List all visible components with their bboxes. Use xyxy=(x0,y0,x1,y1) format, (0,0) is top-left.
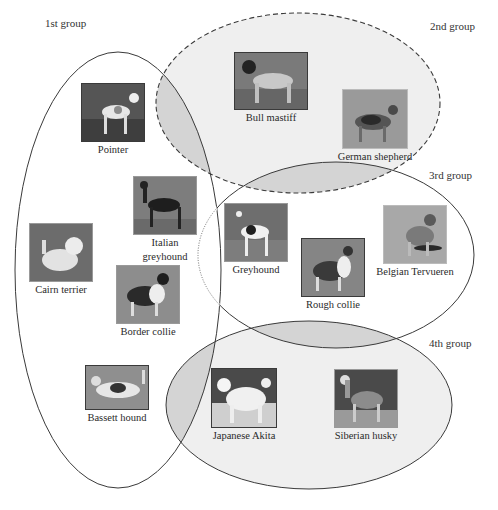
pointer-photo xyxy=(81,83,145,142)
dog-belgian-tervueren: Belgian Tervueren xyxy=(369,205,461,278)
group-2-label: 2nd group xyxy=(430,20,475,32)
german-shepherd-label: German shepherd xyxy=(327,151,423,163)
cairn-terrier-photo xyxy=(29,223,93,282)
greyhound-label: Greyhound xyxy=(222,264,290,276)
italian-greyhound-label-line2: greyhound xyxy=(128,251,202,263)
dog-pointer: Pointer xyxy=(78,83,148,156)
belgian-tervueren-photo xyxy=(383,205,447,264)
border-collie-label: Border collie xyxy=(113,326,183,338)
dog-italian-greyhound: Italian greyhound xyxy=(128,176,202,263)
siberian-husky-photo xyxy=(334,369,398,428)
bassett-hound-label: Bassett hound xyxy=(82,412,152,424)
dog-greyhound: Greyhound xyxy=(222,203,290,276)
bassett-hound-photo xyxy=(85,365,149,410)
dog-japanese-akita: Japanese Akita xyxy=(206,368,282,442)
group-3-label: 3rd group xyxy=(429,169,472,181)
japanese-akita-label: Japanese Akita xyxy=(206,430,282,442)
dog-rough-collie: Rough collie xyxy=(298,238,368,311)
dog-german-shepherd: German shepherd xyxy=(327,89,423,163)
rough-collie-label: Rough collie xyxy=(298,299,368,311)
dog-bull-mastiff: Bull mastiff xyxy=(233,52,309,124)
greyhound-photo xyxy=(224,203,288,262)
bull-mastiff-label: Bull mastiff xyxy=(233,112,309,124)
belgian-tervueren-label: Belgian Tervueren xyxy=(369,266,461,278)
group-4-label: 4th group xyxy=(429,337,471,349)
group-1-label: 1st group xyxy=(45,17,86,29)
bull-mastiff-photo xyxy=(234,52,308,110)
dog-border-collie: Border collie xyxy=(113,265,183,338)
siberian-husky-label: Siberian husky xyxy=(326,430,406,442)
cairn-terrier-label: Cairn terrier xyxy=(26,284,96,296)
rough-collie-photo xyxy=(301,238,365,297)
german-shepherd-photo xyxy=(342,89,408,149)
italian-greyhound-label-line1: Italian xyxy=(128,237,202,249)
dog-siberian-husky: Siberian husky xyxy=(326,369,406,442)
border-collie-photo xyxy=(116,265,180,324)
italian-greyhound-photo xyxy=(133,176,197,235)
japanese-akita-photo xyxy=(211,368,277,428)
dog-cairn-terrier: Cairn terrier xyxy=(26,223,96,296)
pointer-label: Pointer xyxy=(78,144,148,156)
dog-bassett-hound: Bassett hound xyxy=(82,365,152,424)
